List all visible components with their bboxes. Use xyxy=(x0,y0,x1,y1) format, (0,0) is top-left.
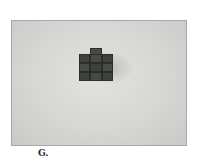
cube-r2-c1 xyxy=(79,63,90,72)
cube-r1-c2 xyxy=(90,54,102,63)
cube-r3-c3 xyxy=(102,72,113,81)
figure-caption: G. xyxy=(38,148,49,158)
photo-plate xyxy=(11,20,187,146)
cube-r2-c3 xyxy=(102,63,113,72)
cube-r1-c1 xyxy=(79,54,90,63)
cube-r2-c2 xyxy=(90,63,102,72)
cube-r1-c3 xyxy=(102,54,113,63)
cube-r3-c2 xyxy=(90,72,102,81)
cube-r3-c1 xyxy=(79,72,90,81)
